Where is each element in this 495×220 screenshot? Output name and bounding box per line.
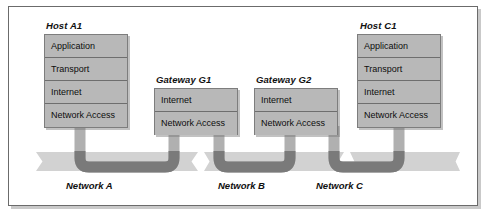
layer-network-access[interactable]: Network Access bbox=[255, 112, 337, 135]
layer-label: Network Access bbox=[261, 119, 325, 128]
layer-label: Transport bbox=[364, 65, 402, 74]
figure-canvas: Host A1 Application Transport Internet N… bbox=[0, 0, 495, 220]
layer-label: Network Access bbox=[51, 111, 115, 120]
protocol-stack-gateway-g2: Internet Network Access bbox=[254, 88, 338, 135]
layer-transport[interactable]: Transport bbox=[45, 58, 127, 81]
node-title-gateway-g1: Gateway G1 bbox=[156, 74, 211, 85]
node-title-host-c1: Host C1 bbox=[360, 20, 397, 31]
network-label-b: Network B bbox=[218, 180, 265, 191]
network-label-c: Network C bbox=[316, 180, 363, 191]
layer-label: Application bbox=[51, 42, 95, 51]
layer-label: Internet bbox=[161, 96, 192, 105]
network-label-a: Network A bbox=[66, 180, 113, 191]
layer-label: Internet bbox=[364, 88, 395, 97]
layer-application[interactable]: Application bbox=[45, 35, 127, 58]
layer-label: Internet bbox=[51, 88, 82, 97]
layer-internet[interactable]: Internet bbox=[155, 89, 237, 112]
network-band-a bbox=[36, 152, 198, 171]
layer-label: Application bbox=[364, 42, 408, 51]
network-band-c bbox=[350, 152, 460, 171]
layer-label: Transport bbox=[51, 65, 89, 74]
node-title-gateway-g2: Gateway G2 bbox=[256, 74, 311, 85]
layer-network-access[interactable]: Network Access bbox=[155, 112, 237, 135]
node-title-host-a1: Host A1 bbox=[46, 20, 82, 31]
layer-transport[interactable]: Transport bbox=[358, 58, 440, 81]
protocol-stack-host-c1: Application Transport Internet Network A… bbox=[357, 34, 441, 128]
layer-network-access[interactable]: Network Access bbox=[45, 104, 127, 127]
protocol-stack-gateway-g1: Internet Network Access bbox=[154, 88, 238, 135]
protocol-stack-host-a1: Application Transport Internet Network A… bbox=[44, 34, 128, 128]
layer-internet[interactable]: Internet bbox=[358, 81, 440, 104]
layer-network-access[interactable]: Network Access bbox=[358, 104, 440, 127]
layer-internet[interactable]: Internet bbox=[45, 81, 127, 104]
layer-label: Network Access bbox=[364, 111, 428, 120]
layer-internet[interactable]: Internet bbox=[255, 89, 337, 112]
layer-label: Network Access bbox=[161, 119, 225, 128]
layer-application[interactable]: Application bbox=[358, 35, 440, 58]
layer-label: Internet bbox=[261, 96, 292, 105]
network-band-b bbox=[204, 152, 344, 171]
